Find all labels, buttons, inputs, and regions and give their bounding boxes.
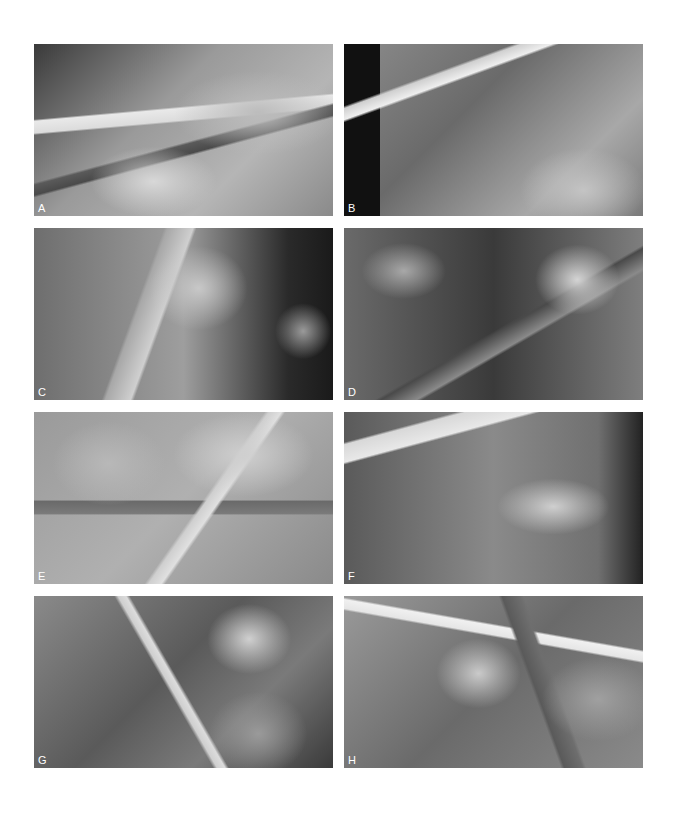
panel-label: B [348, 202, 355, 214]
panel-g: G [34, 596, 333, 768]
panel-h: H [344, 596, 643, 768]
surgical-photo [344, 44, 643, 216]
panel-label: E [38, 570, 45, 582]
panel-label: F [348, 570, 355, 582]
panel-d: D [344, 228, 643, 400]
panel-a: A [34, 44, 333, 216]
panel-label: H [348, 754, 356, 766]
surgical-photo [344, 412, 643, 584]
surgical-photo [344, 596, 643, 768]
panel-label: A [38, 202, 45, 214]
surgical-photo [34, 44, 333, 216]
surgical-photo [34, 228, 333, 400]
surgical-photo [34, 596, 333, 768]
surgical-photo [34, 412, 333, 584]
panel-label: C [38, 386, 46, 398]
panel-f: F [344, 412, 643, 584]
panel-e: E [34, 412, 333, 584]
surgical-photo [344, 228, 643, 400]
panel-label: D [348, 386, 356, 398]
panel-c: C [34, 228, 333, 400]
panel-b: B [344, 44, 643, 216]
panel-label: G [38, 754, 47, 766]
